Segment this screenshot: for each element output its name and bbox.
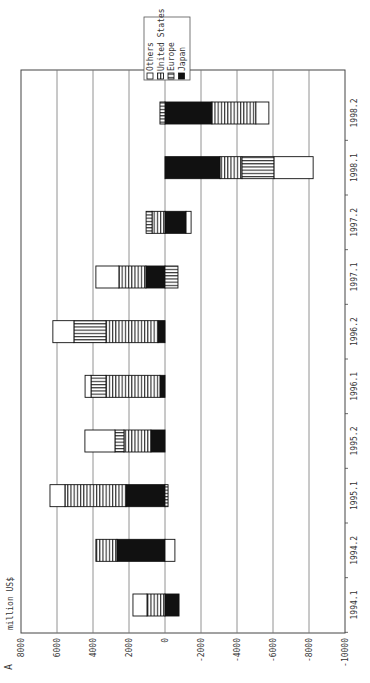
value-tick-label: 8000: [17, 638, 26, 657]
bar-segment-japan: [165, 211, 186, 233]
bar-segment-united-states: [119, 266, 146, 288]
value-tick-label: 2000: [125, 638, 134, 657]
bar-segment-united-states: [106, 375, 160, 397]
bar-segment-others: [53, 321, 74, 343]
bar-segment-japan: [165, 102, 212, 124]
value-tick-label: 0: [161, 638, 170, 643]
bar-segment-europe: [115, 430, 124, 452]
legend-swatch: [168, 73, 174, 79]
bar-segment-japan: [151, 430, 165, 452]
bar-segment-united-states: [147, 594, 165, 616]
value-tick-label: 6000: [53, 638, 62, 657]
bar-segment-others: [85, 430, 115, 452]
category-label: 1997.1: [350, 262, 359, 291]
value-tick-label: -6000: [269, 638, 278, 662]
category-label: 1994.1: [350, 590, 359, 619]
bar-segment-europe: [91, 375, 106, 397]
y-axis-unit-label: million US$: [6, 577, 15, 630]
bar-segment-united-states: [96, 539, 117, 561]
bar-segment-united-states: [220, 157, 242, 179]
category-axis: 1994.11994.21995.11995.21996.11996.21997…: [345, 98, 359, 632]
value-tick-label: -8000: [305, 638, 314, 662]
bar-segment-others: [186, 211, 191, 233]
bar-segment-japan: [165, 157, 220, 179]
category-label: 1994.2: [350, 536, 359, 565]
plot-frame: [21, 70, 345, 633]
plot-area: [21, 70, 345, 633]
bar-segment-others: [50, 485, 65, 507]
category-label: 1996.2: [350, 317, 359, 346]
legend-swatch: [158, 73, 164, 79]
bar-segment-others: [133, 594, 147, 616]
bar-segment-japan: [158, 321, 165, 343]
legend-label: Japan: [178, 47, 187, 71]
bar-segment-europe: [160, 102, 165, 124]
bar-segment-japan: [117, 539, 165, 561]
bar-segment-europe: [165, 266, 178, 288]
category-label: 1995.2: [350, 426, 359, 455]
bar-segment-united-states: [124, 430, 151, 452]
value-tick-label: -10000: [341, 638, 350, 667]
legend-label: United States: [157, 8, 166, 71]
value-axis: 80006000400020000-2000-4000-6000-8000-10…: [17, 638, 350, 667]
bar-segment-united-states: [106, 321, 158, 343]
category-label: 1996.1: [350, 372, 359, 401]
bar-segment-japan: [165, 594, 179, 616]
bar-segment-united-states: [152, 211, 165, 233]
value-tick-label: -4000: [233, 638, 242, 662]
bar-segment-others: [85, 375, 91, 397]
panel-label: A: [3, 664, 14, 670]
bar-segment-japan: [146, 266, 165, 288]
legend: OthersUnited StatesEuropeJapan: [144, 8, 190, 80]
category-label: 1998.2: [350, 98, 359, 127]
bar-segment-others: [256, 102, 269, 124]
category-label: 1997.2: [350, 208, 359, 237]
value-tick-label: -2000: [197, 638, 206, 662]
legend-label: Others: [146, 42, 155, 71]
bar-segment-united-states: [65, 485, 126, 507]
bar-segment-japan: [160, 375, 165, 397]
legend-swatch: [147, 73, 153, 79]
bar-segment-others: [96, 266, 119, 288]
stacked-bar-chart: 80006000400020000-2000-4000-6000-8000-10…: [0, 0, 370, 683]
bar-segment-others: [274, 157, 313, 179]
legend-label: Europe: [167, 42, 176, 71]
bar-segment-europe: [242, 157, 274, 179]
value-tick-label: 4000: [89, 638, 98, 657]
bar-segment-united-states: [212, 102, 256, 124]
category-label: 1998.1: [350, 153, 359, 182]
category-label: 1995.1: [350, 481, 359, 510]
legend-swatch: [179, 73, 185, 79]
bar-segment-europe: [74, 321, 106, 343]
bar-segment-japan: [126, 485, 165, 507]
bar-segment-europe: [165, 485, 168, 507]
bar-segment-others: [165, 539, 175, 561]
bar-segment-europe: [146, 211, 152, 233]
